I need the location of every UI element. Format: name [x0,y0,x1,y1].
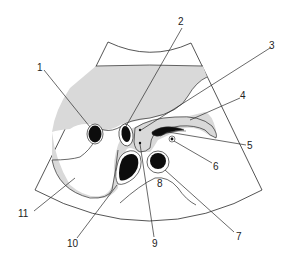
vessel-7-lumen [150,153,166,169]
label-6: 6 [213,161,219,172]
label-8: 8 [157,178,163,189]
label-3: 3 [269,40,275,51]
structure-3-dot [139,129,141,131]
label-2: 2 [178,16,184,27]
label-4: 4 [240,90,246,101]
label-9: 9 [152,238,158,249]
label-7: 7 [236,231,242,242]
vessel-1-lumen [89,126,102,143]
label-11: 11 [18,208,29,219]
label-5: 5 [247,140,253,151]
label-10: 10 [67,238,79,249]
ultrasound-diagram: 1 2 3 4 5 6 7 8 9 10 11 [0,0,291,276]
structure-9-dot [139,142,141,144]
label-1: 1 [37,62,43,73]
structure-6-core [171,138,174,141]
